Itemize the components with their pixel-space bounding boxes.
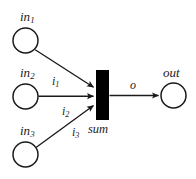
place-label-in3-sub: 3: [30, 129, 34, 139]
place-out: [161, 83, 186, 108]
transition-sum-bar: [96, 70, 109, 120]
place-label-in1-sub: 1: [30, 15, 34, 25]
arc-label-i1: i1: [52, 75, 59, 89]
place-label-out: out: [163, 66, 180, 81]
place-label-in2-sub: 2: [30, 71, 34, 81]
arc-label-o: o: [130, 79, 136, 93]
arc-label-i2: i2: [62, 105, 69, 119]
arc-label-i3: i3: [72, 126, 79, 140]
place-label-in1: in1: [20, 10, 35, 25]
arc-label-i1-sub: 1: [55, 80, 59, 89]
place-label-in2: in2: [20, 66, 35, 81]
place-label-in2-base: in: [20, 65, 30, 80]
place-label-in1-base: in: [20, 9, 30, 24]
place-label-in3-base: in: [20, 123, 30, 138]
arc-label-i3-sub: 3: [75, 131, 79, 140]
place-in1: [13, 28, 38, 53]
place-in2: [13, 84, 38, 109]
place-in3: [13, 142, 38, 167]
arc-line-i1: [35, 50, 93, 87]
arc-label-o-base: o: [130, 78, 136, 92]
petri-net-figure: in1 in2 in3 out i1 i2 i3 o sum: [0, 0, 196, 179]
petri-net-canvas: [0, 0, 196, 179]
place-label-out-base: out: [163, 65, 180, 80]
transition-label-sum: sum: [88, 123, 108, 136]
place-label-in3: in3: [20, 124, 35, 139]
arc-label-i2-sub: 2: [65, 110, 69, 119]
